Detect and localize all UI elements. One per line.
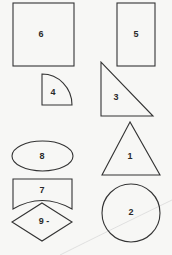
shape-2-circle: 2	[102, 184, 160, 242]
shape-1-label: 1	[127, 151, 132, 161]
shape-3-label: 3	[113, 92, 118, 102]
shape-8-label: 8	[39, 151, 44, 161]
shape-5-rectangle: 5	[117, 3, 155, 66]
shape-6-square: 6	[13, 3, 74, 66]
shape-9-rhombus: 9 -	[12, 203, 72, 241]
shape-6-label: 6	[38, 29, 43, 39]
shape-3-right-triangle: 3	[101, 62, 153, 116]
shape-7-concave-rectangle: 7	[13, 179, 72, 209]
shape-9-label: 9 -	[39, 216, 50, 226]
shape-2-label: 2	[128, 207, 133, 217]
shape-5-label: 5	[133, 29, 138, 39]
shapes-canvas: 6 5 4 3 8 1 7 9 - 2	[0, 0, 172, 255]
shape-7-label: 7	[39, 185, 44, 195]
shape-8-ellipse: 8	[12, 141, 73, 171]
shape-4-quarter-circle: 4	[42, 74, 72, 105]
pencil-mark	[60, 200, 172, 255]
shape-4-label: 4	[50, 87, 55, 97]
shape-1-triangle: 1	[102, 122, 160, 175]
